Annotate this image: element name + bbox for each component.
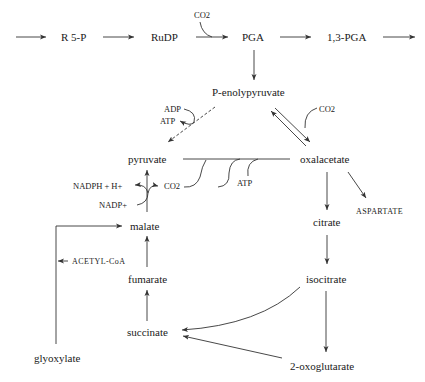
cofactor-co2-malic: CO2 bbox=[164, 181, 180, 191]
node-glyoxylate: glyoxylate bbox=[34, 352, 81, 364]
arrow-oxoglutarate-succinate bbox=[183, 336, 282, 358]
co2-release-curve bbox=[148, 186, 158, 193]
atp-curve bbox=[248, 159, 258, 176]
arrow-isocitrate-succinate bbox=[182, 287, 300, 330]
node-isocitrate: isocitrate bbox=[306, 273, 346, 285]
node-pga: PGA bbox=[242, 31, 264, 43]
node-pep: P-enolypyruvate bbox=[212, 86, 285, 98]
node-oxalacetate: oxalacetate bbox=[300, 153, 350, 165]
node-oxoglutarate: 2-oxoglutarate bbox=[290, 360, 354, 372]
node-fumarate: fumarate bbox=[128, 273, 167, 285]
node-aspartate: ASPARTATE bbox=[356, 207, 403, 216]
cofactor-atp-pep: ATP bbox=[160, 116, 175, 126]
cofactor-nadp: NADP+ bbox=[99, 200, 127, 210]
adp-atp-curve bbox=[180, 109, 195, 124]
node-citrate: citrate bbox=[313, 216, 341, 228]
cofactor-co2-pep: CO2 bbox=[319, 104, 335, 114]
node-13pga: 1,3-PGA bbox=[327, 31, 366, 43]
pathway-diagram: R 5-P RuDP CO2 PGA 1,3-PGA P-enolypyruva… bbox=[0, 0, 425, 382]
node-rudp: RuDP bbox=[151, 31, 178, 43]
cofactor-acetyl-coa: ACETYL-CoA bbox=[72, 257, 125, 266]
arrow-oaa-aspartate bbox=[348, 172, 366, 198]
arrow-oaa-pep bbox=[271, 111, 306, 146]
co2-entry-curve bbox=[200, 22, 212, 37]
nadp-curve bbox=[135, 185, 148, 205]
cofactor-atp-pyr: ATP bbox=[237, 178, 252, 188]
node-r5p: R 5-P bbox=[61, 31, 86, 43]
node-malate: malate bbox=[130, 220, 159, 232]
cofactor-adp: ADP bbox=[164, 104, 181, 114]
cofactor-co2-rudp: CO2 bbox=[194, 10, 210, 20]
co2-link-curve bbox=[184, 160, 206, 187]
node-succinate: succinate bbox=[127, 326, 168, 338]
arrow-glyoxylate-malate bbox=[56, 226, 122, 344]
cofactor-nadph: NADPH + H+ bbox=[73, 181, 122, 191]
co2-pep-curve bbox=[305, 108, 317, 128]
node-pyruvate: pyruvate bbox=[128, 153, 167, 165]
